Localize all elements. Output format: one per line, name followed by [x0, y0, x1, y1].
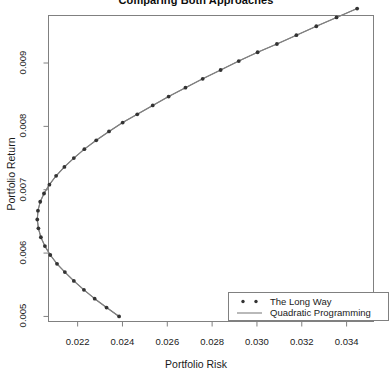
data-point [355, 7, 359, 11]
data-point [36, 209, 40, 213]
legend-label-quadratic-programming: Quadratic Programming [270, 307, 371, 318]
x-axis-ticks [78, 322, 347, 327]
data-point [82, 288, 86, 292]
data-point [42, 192, 46, 196]
data-point [72, 279, 76, 283]
data-point [219, 68, 223, 72]
legend-label-the-long-way: The Long Way [270, 296, 331, 307]
data-point [54, 174, 58, 178]
data-point [63, 270, 67, 274]
data-point [72, 156, 76, 160]
x-tick-label: 0.032 [280, 336, 324, 347]
plot-canvas [0, 0, 392, 381]
series-line-layer [37, 9, 357, 317]
x-tick-label: 0.024 [100, 336, 144, 347]
y-tick-label: 0.008 [16, 104, 27, 148]
series-line [37, 9, 357, 317]
y-tick-label: 0.007 [16, 167, 27, 211]
data-point [48, 253, 52, 257]
data-point [35, 218, 39, 222]
y-tick-label: 0.009 [16, 41, 27, 85]
legend-marker-point-a [241, 300, 244, 303]
data-point [135, 112, 139, 116]
data-point [82, 147, 86, 151]
data-point [237, 59, 241, 63]
legend-marker-point-b [254, 300, 257, 303]
data-point [314, 24, 318, 28]
data-point [39, 235, 43, 239]
data-point [107, 130, 111, 134]
data-point [93, 297, 97, 301]
x-tick-label: 0.022 [56, 336, 100, 347]
data-point [117, 315, 121, 319]
data-point [63, 165, 67, 169]
data-point [105, 306, 109, 310]
chart-figure: Comparing Both Approaches The Long Way Q… [0, 0, 392, 381]
data-point [55, 262, 59, 266]
data-point [38, 200, 42, 204]
y-tick-label: 0.005 [16, 294, 27, 338]
data-point [256, 50, 260, 54]
data-point [121, 121, 125, 125]
data-point [201, 77, 205, 81]
y-axis-label: Portfolio Return [5, 109, 17, 239]
series-point-layer [35, 7, 359, 319]
data-point [48, 183, 52, 187]
series-line [37, 9, 357, 317]
data-point [43, 244, 47, 248]
x-tick-label: 0.026 [145, 336, 189, 347]
data-point [335, 16, 339, 20]
plot-frame [49, 16, 374, 322]
x-axis-label: Portfolio Risk [0, 358, 392, 370]
data-point [295, 33, 299, 37]
x-tick-label: 0.028 [190, 336, 234, 347]
data-point [184, 86, 188, 90]
data-point [151, 104, 155, 108]
data-point [94, 138, 98, 142]
data-point [275, 42, 279, 46]
data-point [167, 95, 171, 99]
y-tick-label: 0.006 [16, 231, 27, 275]
x-tick-label: 0.034 [325, 336, 369, 347]
x-tick-label: 0.030 [235, 336, 279, 347]
data-point [37, 226, 41, 230]
